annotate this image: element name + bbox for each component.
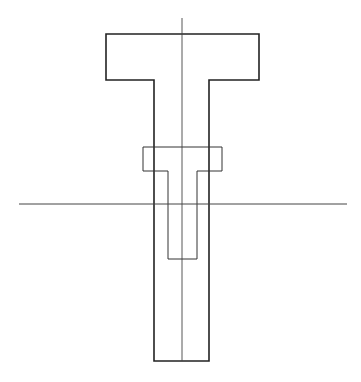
inner-t-outline <box>143 147 222 259</box>
diagram-canvas <box>0 0 361 382</box>
outer-t-outline <box>106 34 259 361</box>
